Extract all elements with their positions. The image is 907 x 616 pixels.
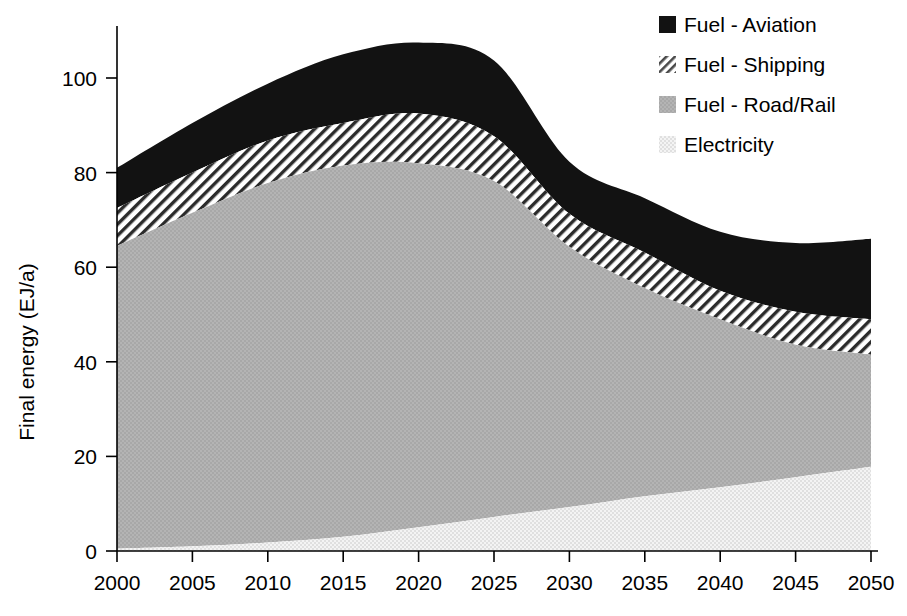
y-tick-label: 100 [62,67,97,90]
legend-label: Fuel - Aviation [684,13,817,36]
chart-canvas: 020406080100 200020052010201520202025203… [0,0,907,616]
legend-swatch-light-dotted [659,136,676,153]
y-tick-labels: 020406080100 [62,67,97,563]
x-tick-marks [117,551,871,562]
y-tick-label: 60 [74,256,97,279]
x-tick-label: 2035 [621,571,668,594]
x-tick-label: 2050 [848,571,895,594]
x-tick-labels: 2000200520102015202020252030203520402045… [94,571,895,594]
legend-label: Fuel - Road/Rail [684,93,836,116]
x-tick-label: 2005 [169,571,216,594]
y-axis-title: Final energy (EJ/a) [15,263,38,440]
stacked-areas [117,42,871,551]
x-tick-label: 2040 [697,571,744,594]
x-tick-label: 2020 [395,571,442,594]
legend-label: Fuel - Shipping [684,53,825,76]
y-tick-label: 40 [74,351,97,374]
x-tick-label: 2045 [772,571,819,594]
x-tick-label: 2015 [320,571,367,594]
x-tick-label: 2030 [546,571,593,594]
area-chart: 020406080100 200020052010201520202025203… [0,0,907,616]
legend-swatch-diagonal-hatch [659,56,676,73]
legend-label: Electricity [684,133,774,156]
y-tick-label: 0 [85,540,97,563]
legend-swatch-medium-gray [659,96,676,113]
legend-swatch-solid-black [659,16,676,33]
x-tick-label: 2025 [471,571,518,594]
x-tick-label: 2010 [244,571,291,594]
y-tick-label: 20 [74,445,97,468]
x-tick-label: 2000 [94,571,141,594]
y-tick-marks [106,78,117,551]
chart-legend: Fuel - AviationFuel - ShippingFuel - Roa… [659,13,836,156]
y-tick-label: 80 [74,162,97,185]
